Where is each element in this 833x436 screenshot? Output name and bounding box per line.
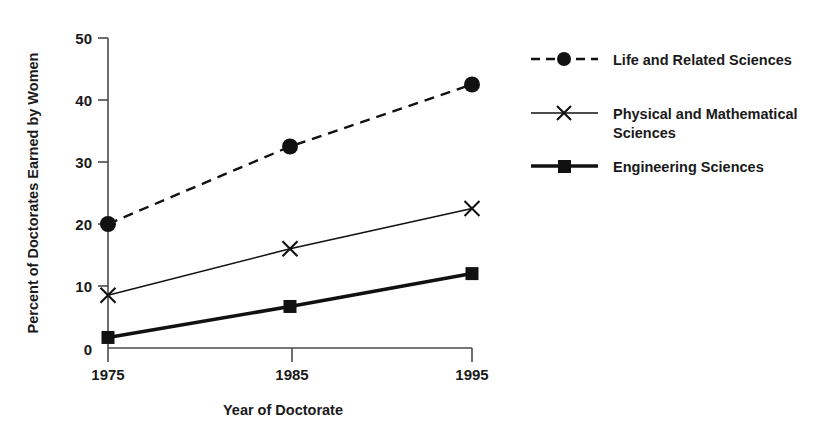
series-group [108, 85, 472, 338]
data-point-square-engineering-sciences-1985 [284, 300, 297, 313]
legend-entry-physical-and-mathematical-sciences[interactable]: Physical and Mathematical Sciences [531, 106, 798, 141]
data-point-circle-life-and-related-sciences-1995 [464, 77, 480, 93]
legend-label-life-and-related-sciences: Life and Related Sciences [613, 52, 792, 68]
legend-marker-square-icon [558, 160, 571, 173]
data-point-square-engineering-sciences-1995 [466, 267, 479, 280]
chart-figure-root: 50 40 30 20 10 0 1975 1985 1995 Percent … [0, 0, 833, 436]
y-axis-title: Percent of Doctorates Earned by Women [25, 53, 41, 334]
data-point-x-physical-and-mathematical-sciences-1985 [283, 241, 298, 256]
data-point-circle-life-and-related-sciences-1985 [282, 139, 298, 155]
x-tick-label-1975: 1975 [91, 366, 124, 383]
data-point-square-engineering-sciences-1975 [102, 331, 115, 344]
legend-marker-circle-icon [557, 52, 571, 66]
y-tick-label-40: 40 [75, 92, 92, 109]
data-point-circle-life-and-related-sciences-1975 [100, 216, 116, 232]
y-tick-label-50: 50 [75, 30, 92, 47]
legend-label-engineering-sciences: Engineering Sciences [613, 159, 764, 175]
line-chart-figure: 50 40 30 20 10 0 1975 1985 1995 Percent … [0, 0, 833, 436]
x-tick-label-1995: 1995 [455, 366, 488, 383]
y-tick-label-10: 10 [75, 278, 92, 295]
x-axis-title: Year of Doctorate [223, 402, 343, 418]
y-tick-label-0: 0 [84, 341, 92, 358]
legend-entry-engineering-sciences[interactable]: Engineering Sciences [531, 159, 764, 175]
legend-label-physical-and-mathematical-sciences: Physical and Mathematical [613, 106, 798, 122]
legend-label-physical-and-mathematical-sciences-line2: Sciences [613, 125, 676, 141]
chart-canvas: 50 40 30 20 10 0 1975 1985 1995 Percent … [0, 0, 833, 436]
y-tick-label-30: 30 [75, 154, 92, 171]
x-tick-label-1985: 1985 [275, 366, 308, 383]
data-point-x-physical-and-mathematical-sciences-1995 [465, 201, 480, 216]
chart-legend: Life and Related Sciences Physical and M… [531, 52, 798, 175]
series-markers-group [100, 77, 480, 344]
legend-entry-life-and-related-sciences[interactable]: Life and Related Sciences [531, 52, 792, 68]
x-axis-ticks [108, 348, 472, 362]
y-axis-ticks [98, 38, 108, 286]
y-tick-label-20: 20 [75, 216, 92, 233]
